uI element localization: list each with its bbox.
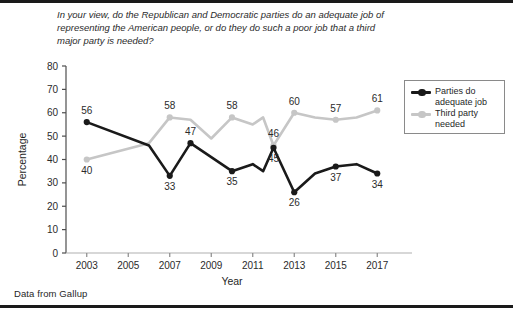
chart-figure: In your view, do the Republican and Demo…	[0, 0, 513, 315]
x-axis-tick-label: 2009	[200, 260, 223, 271]
data-point-parties-adequate	[84, 119, 90, 125]
x-axis-tick-label: 2011	[242, 260, 264, 271]
data-label-parties-adequate: 35	[226, 176, 238, 187]
data-label-third-party: 46	[268, 128, 280, 139]
data-label-parties-adequate: 33	[164, 181, 176, 192]
y-axis-tick-label: 30	[47, 177, 59, 188]
x-axis-tick-label: 2017	[366, 260, 389, 271]
data-label-parties-adequate: 37	[330, 172, 342, 183]
x-axis-tick-label: 2005	[117, 260, 140, 271]
y-axis-tick-label: 80	[47, 61, 59, 72]
source-note: Data from Gallup	[14, 288, 87, 299]
data-label-third-party: 58	[226, 100, 238, 111]
line-chart-plot: 0102030405060708020032005200720092011201…	[0, 0, 513, 315]
data-point-third-party	[167, 114, 173, 120]
legend-item-parties-adequate[interactable]: Parties do adequate job	[411, 86, 497, 108]
legend-label-parties-adequate: Parties do adequate job	[435, 86, 497, 108]
y-axis-tick-label: 0	[52, 248, 58, 259]
legend-marker-gray-line-icon	[411, 109, 431, 120]
data-label-parties-adequate: 26	[289, 197, 301, 208]
x-axis-tick-label: 2013	[283, 260, 306, 271]
data-point-parties-adequate	[270, 145, 276, 151]
data-point-parties-adequate	[333, 163, 339, 169]
data-label-third-party: 61	[372, 93, 384, 104]
chart-legend: Parties do adequate job Third party need…	[404, 80, 505, 134]
y-axis-tick-label: 50	[47, 131, 59, 142]
legend-marker-black-line-icon	[411, 87, 431, 98]
x-axis-tick-label: 2003	[76, 260, 99, 271]
data-label-parties-adequate: 47	[185, 126, 197, 137]
y-axis-tick-label: 70	[47, 84, 59, 95]
data-point-third-party	[84, 156, 90, 162]
data-point-third-party	[229, 114, 235, 120]
data-point-parties-adequate	[291, 189, 297, 195]
data-label-third-party: 57	[330, 103, 342, 114]
y-axis-title: Percentage	[16, 132, 28, 186]
y-axis-tick-label: 20	[47, 201, 59, 212]
data-point-parties-adequate	[167, 173, 173, 179]
data-point-third-party	[333, 117, 339, 123]
legend-label-third-party: Third party needed	[435, 108, 497, 130]
data-label-third-party: 40	[81, 165, 93, 176]
data-point-third-party	[374, 107, 380, 113]
data-point-parties-adequate	[229, 168, 235, 174]
data-label-parties-adequate: 56	[81, 105, 93, 116]
y-axis-tick-label: 60	[47, 107, 59, 118]
x-axis-tick-label: 2007	[159, 260, 182, 271]
data-point-third-party	[291, 110, 297, 116]
data-point-parties-adequate	[374, 170, 380, 176]
data-point-parties-adequate	[187, 140, 193, 146]
data-label-parties-adequate: 34	[372, 179, 384, 190]
data-label-third-party: 58	[164, 100, 176, 111]
figure-bottom-rule	[0, 305, 513, 308]
legend-item-third-party[interactable]: Third party needed	[411, 108, 497, 130]
data-label-parties-adequate: 45	[268, 153, 280, 164]
y-axis-tick-label: 40	[47, 154, 59, 165]
x-axis-tick-label: 2015	[325, 260, 348, 271]
y-axis-tick-label: 10	[47, 224, 59, 235]
x-axis-title: Year	[221, 275, 243, 287]
data-label-third-party: 60	[289, 96, 301, 107]
